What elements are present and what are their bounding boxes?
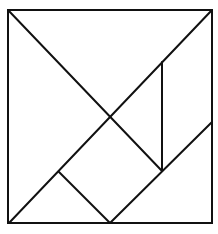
diag-tl-br-upper-line: [8, 10, 162, 171]
tangram-diagram: [0, 0, 218, 234]
small-square-left-edge-line: [59, 172, 110, 223]
dissection-lines: [8, 10, 212, 223]
